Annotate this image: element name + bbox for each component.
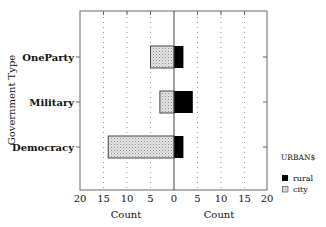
category-label-military: Military [29,97,75,108]
x-axis-title-right: Count [204,209,235,220]
back-to-back-bar-chart: Government Type [0,0,326,227]
x-tick-labels: 20 15 10 5 0 5 10 15 20 [74,193,274,204]
tick-label: 10 [121,193,134,204]
tick-label: 15 [97,193,110,204]
tick-label: 10 [215,193,228,204]
legend: URBAN$ rural city [281,153,315,194]
series-rural [174,46,193,158]
x-axis-title-left: Count [111,209,142,220]
legend-title: URBAN$ [281,153,315,162]
bar-rural-democracy [174,136,183,158]
bar-rural-oneparty [174,46,183,68]
tick-label: 20 [261,193,274,204]
tick-label: 20 [74,193,87,204]
category-label-democracy: Democracy [12,142,75,153]
bar-rural-military [174,91,193,113]
tick-label: 15 [238,193,251,204]
bar-city-democracy [108,136,174,158]
bar-city-military [160,91,174,113]
y-axis-title: Government Type [6,55,17,146]
bar-city-oneparty [151,46,175,68]
tick-label: 5 [147,193,153,204]
legend-swatch-rural [282,175,288,181]
legend-label-rural: rural [293,174,314,183]
series-city [108,46,174,158]
legend-label-city: city [293,185,308,194]
category-label-oneparty: OneParty [22,52,75,63]
legend-swatch-city [283,187,289,193]
tick-label: 0 [171,193,177,204]
tick-label: 5 [194,193,200,204]
